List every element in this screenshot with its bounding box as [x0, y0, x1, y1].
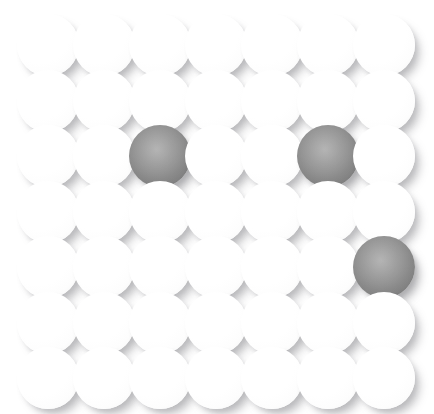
light-sphere: [17, 181, 79, 243]
light-sphere: [185, 125, 247, 187]
light-sphere: [241, 347, 303, 409]
light-sphere: [73, 181, 135, 243]
sphere-grid-canvas: [0, 0, 434, 414]
light-sphere: [353, 181, 415, 243]
light-sphere: [241, 125, 303, 187]
light-sphere: [17, 292, 79, 354]
light-sphere: [353, 292, 415, 354]
dark-sphere: [129, 125, 191, 187]
light-sphere: [129, 70, 191, 132]
light-sphere: [17, 125, 79, 187]
light-sphere: [185, 70, 247, 132]
light-sphere: [241, 236, 303, 298]
dark-sphere: [297, 125, 359, 187]
light-sphere: [297, 292, 359, 354]
light-sphere: [297, 70, 359, 132]
light-sphere: [241, 181, 303, 243]
light-sphere: [129, 236, 191, 298]
light-sphere: [185, 347, 247, 409]
dark-sphere: [353, 236, 415, 298]
light-sphere: [185, 14, 247, 76]
light-sphere: [241, 70, 303, 132]
light-sphere: [129, 14, 191, 76]
light-sphere: [73, 70, 135, 132]
light-sphere: [73, 236, 135, 298]
light-sphere: [297, 14, 359, 76]
light-sphere: [185, 236, 247, 298]
light-sphere: [129, 181, 191, 243]
light-sphere: [297, 347, 359, 409]
light-sphere: [297, 236, 359, 298]
light-sphere: [73, 125, 135, 187]
light-sphere: [353, 70, 415, 132]
light-sphere: [73, 14, 135, 76]
light-sphere: [73, 292, 135, 354]
light-sphere: [185, 181, 247, 243]
light-sphere: [17, 70, 79, 132]
light-sphere: [353, 347, 415, 409]
light-sphere: [129, 347, 191, 409]
light-sphere: [297, 181, 359, 243]
light-sphere: [17, 236, 79, 298]
light-sphere: [185, 292, 247, 354]
light-sphere: [353, 14, 415, 76]
light-sphere: [17, 347, 79, 409]
light-sphere: [73, 347, 135, 409]
light-sphere: [241, 14, 303, 76]
sphere-layer: [0, 0, 434, 414]
light-sphere: [129, 292, 191, 354]
light-sphere: [241, 292, 303, 354]
light-sphere: [353, 125, 415, 187]
light-sphere: [17, 14, 79, 76]
